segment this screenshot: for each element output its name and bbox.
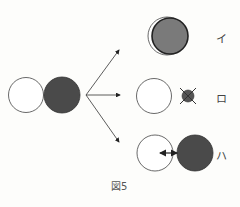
arrow-to-ha: [86, 95, 119, 142]
figure-caption: 図5: [111, 178, 127, 193]
label-i: イ: [216, 30, 227, 46]
label-ro: ロ: [216, 90, 227, 106]
source-white-circle: [9, 78, 44, 113]
diagram-canvas: [0, 0, 240, 207]
i-gray-circle: [152, 18, 188, 54]
ha-dark-circle: [177, 135, 213, 171]
ro-white-circle: [137, 79, 172, 114]
label-ha: ハ: [216, 147, 227, 163]
source-dark-circle: [44, 77, 80, 113]
arrow-to-i: [86, 50, 119, 95]
